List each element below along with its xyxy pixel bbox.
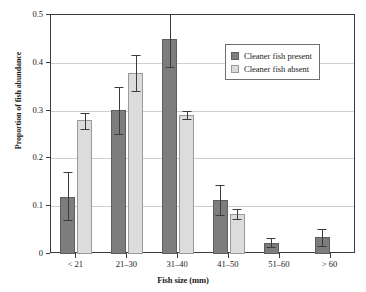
x-axis-tick-label: > 60 bbox=[322, 259, 337, 269]
x-axis-tick bbox=[330, 253, 331, 258]
error-bar-cap-lower bbox=[267, 247, 276, 248]
error-bar-cap-lower bbox=[114, 134, 123, 135]
legend-swatch-present-icon bbox=[231, 52, 239, 60]
error-bar-stem bbox=[220, 185, 221, 215]
y-axis-tick bbox=[46, 157, 50, 158]
y-axis-tick-label: 0.3 bbox=[0, 105, 43, 115]
error-bar-stem bbox=[271, 238, 272, 247]
y-axis-tick-label: 0.1 bbox=[0, 200, 43, 210]
error-bar-stem bbox=[237, 209, 238, 219]
error-bar-cap-upper bbox=[233, 209, 242, 210]
error-bar-cap-lower bbox=[63, 220, 72, 221]
error-bar-cap-lower bbox=[216, 215, 225, 216]
error-bar-cap-lower bbox=[182, 119, 191, 120]
legend-swatch-absent-icon bbox=[231, 65, 239, 73]
error-bar-cap-lower bbox=[80, 129, 89, 130]
y-axis-tick bbox=[46, 253, 50, 254]
error-bar-stem bbox=[136, 55, 137, 90]
y-axis-tick-label: 0.5 bbox=[0, 9, 43, 19]
error-bar-cap-lower bbox=[131, 91, 140, 92]
x-axis-tick bbox=[126, 253, 127, 258]
x-axis-tick bbox=[228, 253, 229, 258]
plot-area: Cleaner fish present Cleaner fish absent bbox=[50, 14, 355, 253]
legend: Cleaner fish present Cleaner fish absent bbox=[225, 44, 320, 80]
error-bar-cap-upper bbox=[216, 185, 225, 186]
error-bar-stem bbox=[170, 15, 171, 67]
error-bar-stem bbox=[68, 172, 69, 220]
error-bar-cap-upper bbox=[80, 113, 89, 114]
error-bar-cap-lower bbox=[165, 67, 174, 68]
y-axis-tick-label: 0.2 bbox=[0, 152, 43, 162]
error-bar-cap-upper bbox=[182, 111, 191, 112]
error-bar-cap-lower bbox=[318, 246, 327, 247]
gridline bbox=[51, 158, 354, 159]
y-axis-tick bbox=[46, 110, 50, 111]
legend-label-absent: Cleaner fish absent bbox=[244, 64, 309, 74]
bar-absent bbox=[128, 73, 143, 254]
gridline bbox=[51, 206, 354, 207]
error-bar-cap-upper bbox=[114, 87, 123, 88]
error-bar-cap-upper bbox=[131, 55, 140, 56]
x-axis-tick bbox=[75, 253, 76, 258]
x-axis-tick-label: 31–40 bbox=[166, 259, 187, 269]
error-bar-cap-upper bbox=[63, 172, 72, 173]
y-axis-tick-label: 0 bbox=[0, 248, 43, 258]
bar-present bbox=[162, 39, 177, 254]
x-axis-tick bbox=[177, 253, 178, 258]
error-bar-cap-lower bbox=[233, 219, 242, 220]
y-axis-tick bbox=[46, 205, 50, 206]
error-bar-stem bbox=[85, 113, 86, 129]
error-bar-stem bbox=[187, 111, 188, 119]
y-axis-tick bbox=[46, 14, 50, 15]
x-axis-tick-label: 51–60 bbox=[268, 259, 289, 269]
y-axis-tick bbox=[46, 62, 50, 63]
x-axis-tick-label: < 21 bbox=[68, 259, 83, 269]
gridline bbox=[51, 111, 354, 112]
error-bar-stem bbox=[119, 87, 120, 133]
x-axis-tick-label: 41–50 bbox=[217, 259, 238, 269]
x-axis-label: Fish size (mm) bbox=[0, 275, 366, 285]
error-bar-cap-upper bbox=[318, 229, 327, 230]
legend-item-present: Cleaner fish present bbox=[231, 49, 312, 62]
y-axis-tick-label: 0.4 bbox=[0, 57, 43, 67]
bar-absent bbox=[179, 115, 194, 254]
x-axis-tick bbox=[279, 253, 280, 258]
legend-label-present: Cleaner fish present bbox=[244, 51, 312, 61]
error-bar-cap-upper bbox=[267, 238, 276, 239]
legend-item-absent: Cleaner fish absent bbox=[231, 62, 312, 75]
bar-absent bbox=[77, 120, 92, 254]
error-bar-stem bbox=[322, 229, 323, 246]
x-axis-tick-label: 21–30 bbox=[116, 259, 137, 269]
chart-figure: Proportion of fish abundance Cleaner fis… bbox=[0, 0, 366, 292]
